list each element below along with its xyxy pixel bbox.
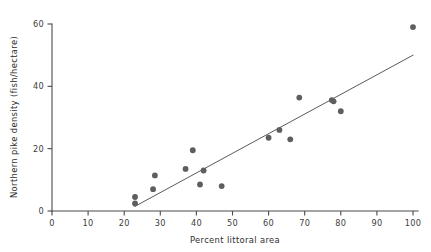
x-tick-label: 30 <box>155 218 166 228</box>
x-tick-label: 0 <box>49 218 55 228</box>
x-tick-label: 50 <box>227 218 238 228</box>
data-point <box>277 127 283 133</box>
data-point <box>190 147 196 153</box>
data-point <box>266 135 272 141</box>
x-axis-title: Percent littoral area <box>190 235 280 245</box>
y-tick-label: 60 <box>33 19 44 29</box>
data-point <box>152 173 158 179</box>
data-point <box>132 194 138 200</box>
x-tick-label: 70 <box>299 218 310 228</box>
data-point <box>197 182 203 188</box>
x-tick-label: 100 <box>405 218 422 228</box>
data-point <box>183 166 189 172</box>
data-point <box>287 136 293 142</box>
data-point <box>331 98 337 104</box>
data-point <box>132 201 138 207</box>
data-point <box>150 186 156 192</box>
y-tick-label: 0 <box>38 206 44 216</box>
x-tick-label: 90 <box>371 218 382 228</box>
data-point <box>201 168 207 174</box>
y-tick-label: 40 <box>33 81 44 91</box>
regression-line-layer <box>135 55 413 206</box>
x-tick-label: 60 <box>263 218 274 228</box>
y-tick-label: 20 <box>33 144 44 154</box>
data-point <box>219 183 225 189</box>
regression-line <box>135 55 413 206</box>
y-tick-group: 0204060 <box>33 19 52 216</box>
scatter-plot-figure: 0204060 0102030405060708090100 Percent l… <box>0 0 431 252</box>
data-point <box>296 95 302 101</box>
x-tick-label: 10 <box>83 218 94 228</box>
x-tick-label: 80 <box>335 218 346 228</box>
data-points-layer <box>132 24 416 206</box>
data-point <box>338 108 344 114</box>
y-axis: 0204060 <box>33 19 52 216</box>
x-tick-group: 0102030405060708090100 <box>49 211 421 228</box>
y-axis-title: Northern pike density (fish/hectare) <box>9 36 19 198</box>
plot-canvas: 0204060 0102030405060708090100 Percent l… <box>0 0 431 252</box>
x-tick-label: 40 <box>191 218 202 228</box>
data-point <box>410 24 416 30</box>
x-tick-label: 20 <box>119 218 130 228</box>
x-axis: 0102030405060708090100 <box>49 211 421 228</box>
